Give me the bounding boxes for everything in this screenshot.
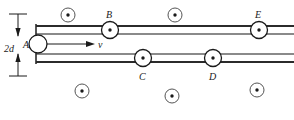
velocity-arrow-head <box>86 41 95 47</box>
dimension-arrow-up-head <box>15 53 20 62</box>
point-label-d: D <box>209 72 216 82</box>
point-label-c: C <box>139 72 146 82</box>
velocity-label: v <box>98 40 102 50</box>
field-out-of-page-dot-e <box>257 28 260 31</box>
field-dot-bottom-right-center <box>255 88 258 91</box>
field-dot-bottom-left-center <box>80 89 83 92</box>
dimension-arrow-down-head <box>15 28 20 37</box>
physics-figure: BECD2dAv <box>0 0 294 120</box>
field-dot-top-middle-center <box>173 13 176 16</box>
point-label-b: B <box>106 10 112 20</box>
point-label-a: A <box>23 40 29 50</box>
moving-rod <box>29 35 47 53</box>
field-out-of-page-dot-b <box>108 28 111 31</box>
field-out-of-page-dot-c <box>141 56 144 59</box>
field-dot-top-left-center <box>66 13 69 16</box>
field-dot-bottom-mid-center <box>170 94 173 97</box>
dimension-label-2d: 2d <box>4 44 14 54</box>
point-label-e: E <box>255 10 261 20</box>
figure-canvas <box>0 0 294 120</box>
field-out-of-page-dot-d <box>211 56 214 59</box>
